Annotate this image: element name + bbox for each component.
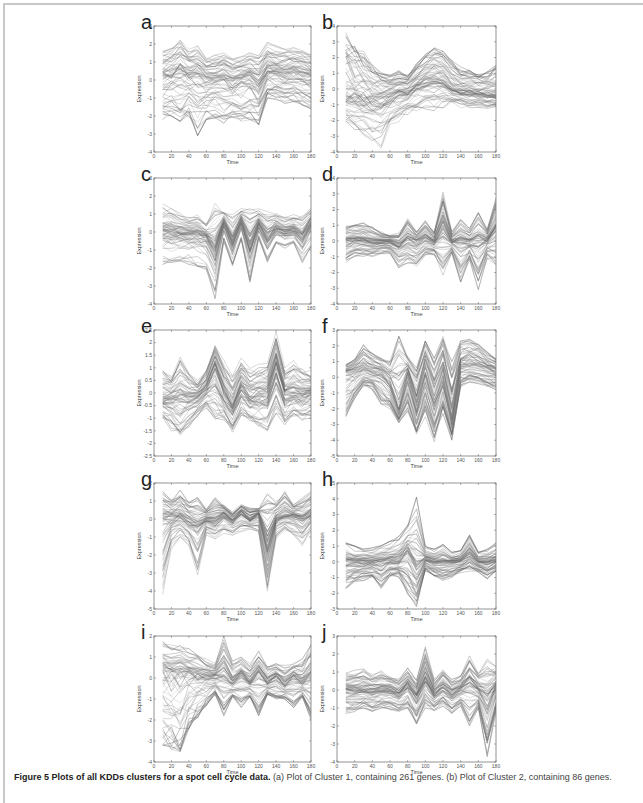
y-axis-title: Expression	[319, 685, 325, 712]
y-tick-label: 0	[332, 687, 335, 693]
y-tick-label: -2	[331, 723, 336, 729]
y-tick-label: 2	[332, 651, 335, 657]
caption-text: (a) Plot of Cluster 1, containing 261 ge…	[271, 772, 612, 782]
x-tick-label: 120	[439, 763, 448, 769]
y-tick-label: 1	[332, 669, 335, 675]
x-tick-label: 160	[474, 763, 483, 769]
y-tick-label: -1	[331, 705, 336, 711]
caption-title: Figure 5 Plots of all KDDs clusters for …	[14, 772, 271, 782]
x-tick-label: 140	[456, 763, 465, 769]
gene-profiles	[346, 647, 496, 757]
x-tick-label: 20	[352, 763, 358, 769]
y-tick-label: 3	[332, 633, 335, 639]
x-tick-label: 180	[492, 763, 501, 769]
y-tick-label: -3	[331, 741, 336, 747]
x-tick-label: 0	[336, 763, 339, 769]
figure-caption: Figure 5 Plots of all KDDs clusters for …	[14, 772, 634, 782]
x-tick-label: 40	[370, 763, 376, 769]
y-tick-label: -4	[331, 759, 336, 765]
x-tick-label: 60	[387, 763, 393, 769]
